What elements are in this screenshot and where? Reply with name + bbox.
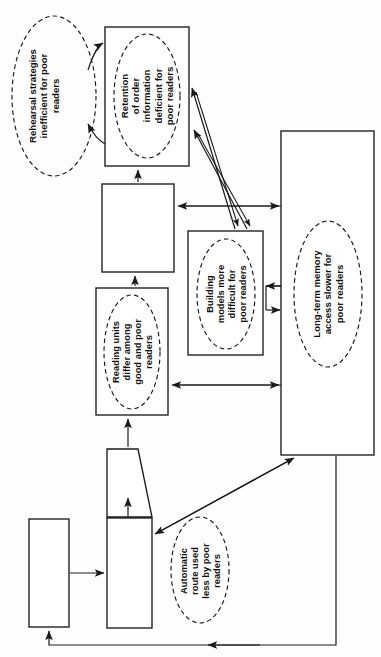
arrow-rehearsal-to-retention — [88, 43, 103, 70]
feedback-loop-ltm-to-inputbox — [49, 456, 336, 645]
retention-box[interactable] — [105, 27, 189, 166]
arrow-ltm-to-stem — [155, 459, 292, 534]
diagram-canvas: Rehearsal strategies inefficient for poo… — [0, 0, 381, 657]
long-term-memory-box[interactable] — [281, 131, 374, 455]
flow-diagram-svg — [0, 0, 381, 657]
trapezoid-box[interactable] — [107, 449, 152, 517]
arrow-retention-to-building-b — [198, 134, 250, 226]
arrow-retention-to-rehearsal — [88, 124, 105, 144]
middle-empty-box[interactable] — [102, 184, 174, 272]
reading-units-box[interactable] — [96, 288, 168, 415]
rehearsal-ellipse — [12, 16, 96, 176]
arrow-building-to-retention-a — [192, 88, 235, 229]
building-models-box[interactable] — [188, 231, 263, 355]
lower-stem-box[interactable] — [107, 518, 152, 628]
automatic-route-ellipse — [171, 517, 229, 623]
input-box[interactable] — [29, 519, 69, 627]
arrow-building-to-retention-b — [194, 130, 247, 229]
